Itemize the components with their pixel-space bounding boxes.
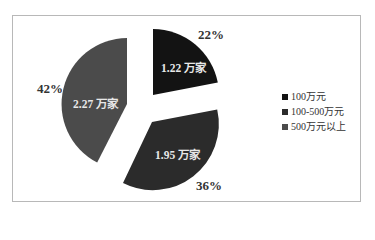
legend-swatch-darkgrey <box>282 109 288 115</box>
pct-label-42: 42% <box>37 81 63 97</box>
legend-swatch-black <box>282 94 288 100</box>
legend: 100万元 100-500万元 500万元以上 <box>282 89 346 134</box>
pct-label-36: 36% <box>196 178 222 194</box>
value-label-1-95: 1.95 万家 <box>155 146 200 162</box>
pct-label-22: 22% <box>198 27 224 43</box>
legend-item-500wan-plus: 500万元以上 <box>282 119 346 134</box>
legend-swatch-grey <box>282 124 288 130</box>
legend-item-100-500wan: 100-500万元 <box>282 104 346 119</box>
value-label-1-22: 1.22 万家 <box>161 59 206 75</box>
value-label-2-27: 2.27 万家 <box>73 95 118 111</box>
legend-label: 500万元以上 <box>291 119 346 134</box>
legend-item-100wan: 100万元 <box>282 89 346 104</box>
legend-label: 100-500万元 <box>291 104 344 119</box>
legend-label: 100万元 <box>291 89 326 104</box>
